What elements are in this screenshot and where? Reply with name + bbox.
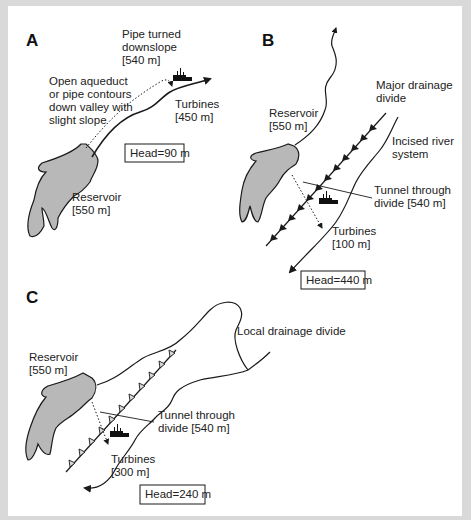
panel-a: A Pipe turned downslope [540 m] Open aqu… [26,28,223,237]
tunnel-c-label: Tunnel through divide [540 m] [158,409,238,434]
turbine-powerhouse-icon [110,424,129,437]
turbine-powerhouse-icon [173,68,192,81]
reservoir-b [240,144,299,222]
turbines-c-label: Turbines [300 m] [111,453,159,478]
tunnel-b-label: Tunnel through divide [540 m] [374,184,454,209]
major-divide-label: Major drainage divide [376,79,456,104]
reservoir-a-label: Reservoir [550 m] [72,191,124,216]
hydropower-diagram: A Pipe turned downslope [540 m] Open aqu… [0,0,471,532]
head-b-value: Head=440 m [306,274,372,286]
tunnel-c-leader [100,412,154,422]
turbines-a-label: Turbines [450 m] [175,98,223,123]
panel-c: C Local drainage divide [26,288,346,504]
tunnel-c [92,402,108,444]
valley-c-upper [97,302,248,385]
panel-b: B Major drainage [240,28,458,289]
aqueduct-label: Open aqueduct or pipe contours down vall… [49,75,136,126]
turbine-powerhouse-icon [319,191,338,204]
turbines-b-label: Turbines [100 m] [332,225,380,250]
panel-b-label: B [262,31,274,50]
reservoir-c-label: Reservoir [550 m] [29,351,81,376]
panel-a-label: A [26,31,38,50]
tunnel-b-leader [303,182,372,198]
panel-c-label: C [26,288,38,307]
head-a-value: Head=90 m [130,147,190,159]
incised-river-label: Incised river system [392,135,457,160]
head-c-value: Head=240 m [145,488,211,500]
reservoir-c [26,373,96,460]
valley-c-branch2 [248,352,270,370]
pipe-turned-label: Pipe turned downslope [540 m] [122,28,184,66]
valley-c-branch [200,370,248,380]
reservoir-b-label: Reservoir [550 m] [269,107,321,132]
local-divide-label: Local drainage divide [237,325,346,337]
